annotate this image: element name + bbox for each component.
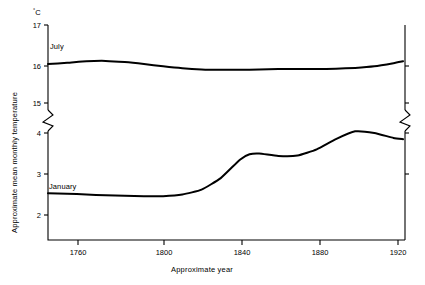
y-tick-label-3: 3 [27,170,41,179]
x-tick-label-1920: 1920 [382,248,414,257]
x-tick-label-1880: 1880 [304,248,336,257]
left-spine-lower-and-bottom [48,131,405,240]
y-tick-label-2: 2 [27,211,41,220]
x-axis-title: Approximate year [171,265,233,274]
y-tick-label-16: 16 [27,62,41,71]
axis-spines [43,25,410,240]
chart-figure: °C Approximate mean monthly temperature … [0,0,425,285]
series-label-july: July [50,42,64,51]
left-spine-break-zigzag-icon [43,110,53,131]
x-tick-label-1800: 1800 [148,248,180,257]
x-axis-ticks [78,240,398,245]
y-tick-label-4: 4 [27,129,41,138]
x-tick-label-1840: 1840 [226,248,258,257]
series-line-july [48,61,403,70]
y-axis-title: Approximate mean monthly temperature [10,92,19,233]
x-tick-label-1760: 1760 [62,248,94,257]
right-spine-break-zigzag-icon [400,110,410,131]
y-axis-unit-label: °C [33,8,41,17]
right-axis-ticks [405,66,409,174]
series-label-january: January [49,182,76,191]
y-tick-label-15: 15 [27,99,41,108]
y-tick-label-17: 17 [27,21,41,30]
series-line-january [48,131,403,196]
unit-letter: C [35,8,41,17]
